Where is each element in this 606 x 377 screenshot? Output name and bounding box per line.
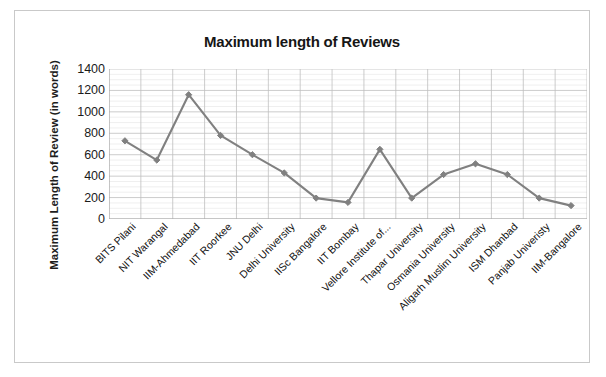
chart-title: Maximum length of Reviews <box>15 33 589 50</box>
y-tick-label: 200 <box>63 191 105 205</box>
y-tick-label: 1000 <box>63 105 105 119</box>
y-tick-label: 1400 <box>63 62 105 76</box>
y-tick-label: 400 <box>63 169 105 183</box>
data-point-marker <box>472 161 478 167</box>
chart-frame: Maximum length of Reviews Maximum Length… <box>14 10 590 363</box>
plot-area <box>109 69 587 219</box>
y-tick-label: 1200 <box>63 83 105 97</box>
y-tick-label: 0 <box>63 212 105 226</box>
y-tick-label: 800 <box>63 126 105 140</box>
x-axis-tick-labels: BITS PilaniNIT WarangalIIM-AhmedabadIIT … <box>109 221 587 361</box>
data-series-line <box>125 95 571 206</box>
y-axis-tick-labels: 1400120010008006004002000 <box>55 69 105 219</box>
line-chart-svg <box>109 69 587 219</box>
y-tick-label: 600 <box>63 148 105 162</box>
data-point-marker <box>568 203 574 209</box>
